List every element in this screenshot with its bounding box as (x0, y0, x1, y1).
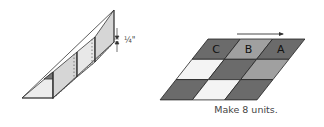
quarter-inch-marker (114, 28, 119, 52)
make-units-caption: Make 8 units. (196, 104, 296, 115)
strip-panel-3 (95, 10, 114, 62)
direction-arrow (237, 32, 284, 36)
arrow-head-icon (279, 32, 284, 36)
grid-cell-label: C (212, 43, 220, 56)
unit-grid: CBA (160, 39, 305, 100)
folded-strip-illustration (22, 10, 119, 99)
measurement-label: ¼" (124, 36, 135, 45)
strip-panel-1 (53, 52, 77, 98)
grid-cell-label: A (277, 43, 285, 56)
grid-cell-label: B (245, 43, 253, 56)
